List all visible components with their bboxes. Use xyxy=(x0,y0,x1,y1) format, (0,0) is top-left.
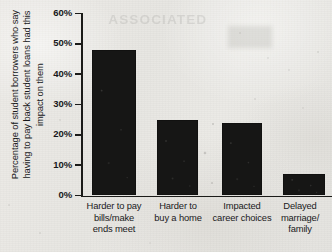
y-tick-label: 30% xyxy=(46,98,72,109)
bar xyxy=(222,123,262,196)
y-tick-mark xyxy=(75,195,82,197)
y-tick-label-wrap: 10% xyxy=(46,159,72,171)
bar xyxy=(157,120,198,196)
bar xyxy=(283,174,325,195)
x-axis-label: Delayed marriage/ family xyxy=(268,200,332,235)
bar-chart-plot-area: 0%10%20%30%40%50%60% Harder to pay bills… xyxy=(0,0,332,252)
y-tick-label: 0% xyxy=(46,189,72,200)
y-tick-mark xyxy=(75,164,82,166)
y-tick-label: 40% xyxy=(46,68,72,79)
bar xyxy=(92,50,136,196)
y-tick-label: 60% xyxy=(46,7,72,18)
y-tick-label: 50% xyxy=(46,37,72,48)
y-tick-label-wrap: 50% xyxy=(46,37,72,49)
y-tick-label-wrap: 0% xyxy=(46,189,72,201)
y-tick-label: 20% xyxy=(46,128,72,139)
chart-screenshot: ASSOCIATED 0%10%20%30%40%50%60% Harder t… xyxy=(0,0,332,252)
x-axis-line xyxy=(81,196,332,198)
y-tick-label-wrap: 40% xyxy=(46,68,72,80)
y-axis-title: Percentage of student borrowers who say … xyxy=(9,0,46,195)
y-tick-mark xyxy=(75,73,82,75)
y-tick-mark xyxy=(75,104,82,106)
y-tick-label-wrap: 20% xyxy=(46,128,72,140)
y-tick-label: 10% xyxy=(46,159,72,170)
y-tick-mark xyxy=(75,13,82,15)
y-tick-label-wrap: 60% xyxy=(46,7,72,19)
y-tick-label-wrap: 30% xyxy=(46,98,72,110)
y-tick-mark xyxy=(75,43,82,45)
y-tick-mark xyxy=(75,134,82,136)
